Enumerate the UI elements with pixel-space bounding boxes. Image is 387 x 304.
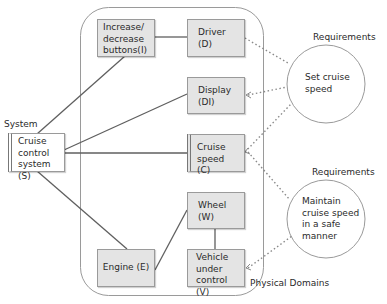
system-heading: System xyxy=(4,119,38,129)
domain-driver[interactable]: Driver (D) xyxy=(187,19,245,57)
requirement-line: cruise speed xyxy=(302,208,359,220)
domain-line: (W) xyxy=(198,212,239,224)
domain-line: Increase/ xyxy=(103,22,149,34)
domain-line: Display xyxy=(198,85,239,97)
ref-req2-vehicle xyxy=(248,236,292,268)
arrowhead-cruise-speed xyxy=(245,148,250,154)
domain-display[interactable]: Display (DI) xyxy=(187,77,245,114)
domain-line: (DI) xyxy=(198,97,239,109)
domain-line: (D) xyxy=(198,39,239,51)
link-system-display xyxy=(64,94,187,150)
domain-line: Wheel xyxy=(198,200,239,212)
system-box-line: Cruise xyxy=(18,136,59,148)
requirement-maintain-cruise-speed[interactable]: Maintain cruise speed in a safe manner xyxy=(302,196,359,242)
requirement-line: Set cruise xyxy=(305,72,350,84)
ref-req1-display xyxy=(248,87,287,95)
system-box-line: system (S) xyxy=(18,159,59,182)
domain-wheel[interactable]: Wheel (W) xyxy=(187,192,245,229)
domain-line: control (V) xyxy=(196,275,239,298)
requirement-set-cruise-speed[interactable]: Set cruise speed xyxy=(305,72,350,95)
requirement-line: Maintain xyxy=(302,196,359,208)
requirement-line: speed xyxy=(305,84,350,96)
domain-cruise-speed[interactable]: Cruise speed (C) xyxy=(187,134,245,172)
requirements-heading-1: Requirements xyxy=(313,32,376,42)
ref-req1-driver xyxy=(245,38,288,63)
domain-line: Engine (E) xyxy=(103,262,149,274)
requirements-heading-2: Requirements xyxy=(312,167,375,177)
system-box-line: control xyxy=(18,148,59,160)
ref-req2-cruise-speed xyxy=(248,152,290,200)
domain-line: Driver xyxy=(198,27,239,39)
domain-line: speed (C) xyxy=(197,154,239,177)
domain-line: decrease xyxy=(103,34,149,46)
requirement-line: in a safe xyxy=(302,219,359,231)
domain-line: Cruise xyxy=(197,142,239,154)
link-engine-wheel xyxy=(155,210,187,270)
link-system-engine xyxy=(37,171,127,249)
domain-increase-decrease-buttons[interactable]: Increase/ decrease buttons(I) xyxy=(97,19,155,57)
domain-line: buttons(I) xyxy=(103,45,149,57)
domain-vehicle-under-control[interactable]: Vehicle under control (V) xyxy=(187,249,245,287)
system-box-cruise-control[interactable]: Cruise control system (S) xyxy=(8,133,65,172)
problem-frame-diagram: System Cruise control system (S) Increas… xyxy=(0,0,387,304)
physical-domains-label: Physical Domains xyxy=(250,278,329,288)
domain-line: under xyxy=(196,264,239,276)
domain-engine[interactable]: Engine (E) xyxy=(97,249,155,287)
requirement-line: manner xyxy=(302,231,359,243)
ref-req1-cruise-speed xyxy=(245,104,291,152)
domain-line: Vehicle xyxy=(196,252,239,264)
